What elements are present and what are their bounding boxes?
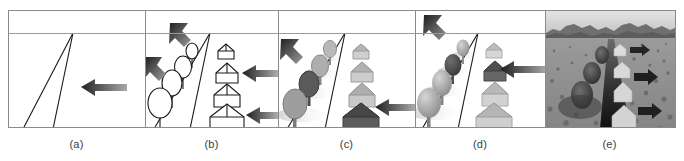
arrow-left-mid-d [500,61,546,78]
panel-a [9,11,146,127]
arrow-diagonal-upper-b [169,23,191,47]
house-smooth-4 [476,103,512,127]
arrow-left-road-a [81,79,127,96]
house-smooth-2-highlighted [484,61,506,81]
figure-panel-series: (a) (b) (c) (d) (e) Progressive scene re… [0,0,684,161]
caption-row: (a) (b) (c) (d) (e) [8,132,676,156]
arrow-left-bottom-b [246,107,279,124]
caption-e: (e) [545,132,674,156]
house-outline-1 [218,44,234,59]
house-smooth-3 [482,82,508,106]
tree-shadow-e [558,95,602,119]
tree-photoreal-1-e [595,46,609,64]
road-right-edge-a [53,33,73,127]
tree-photoreal-2-e [583,62,601,84]
panel-c-canvas [279,11,416,127]
horizon-line-c [279,33,415,34]
house-outline-2 [216,63,238,83]
road-left-edge-a [23,33,73,127]
panel-e [546,11,675,127]
house-smooth-1 [486,43,502,58]
house-shaded-2 [351,62,373,82]
tree-outline-4 [148,88,172,127]
arrow-diagonal-upper-d [423,15,446,40]
panel-row [8,10,676,128]
caption-b: (b) [145,132,278,156]
panel-d [416,11,546,127]
arrow-left-bottom-c [375,99,416,116]
house-shaded-1 [353,44,369,59]
caption-c: (c) [278,132,415,156]
horizon-line-b [146,33,278,34]
panel-b [146,11,279,127]
arrow-diagonal-upper-c [280,39,303,64]
panel-e-canvas [546,11,675,127]
panel-d-canvas [416,11,546,127]
caption-d: (d) [415,132,545,156]
panel-c [279,11,416,127]
horizon-line-a [9,33,145,34]
arrow-left-mid-b [242,65,279,82]
caption-a: (a) [8,132,145,156]
panel-a-canvas [9,11,146,127]
tree-smooth-4 [417,88,441,127]
horizon-line-d [416,33,545,34]
panel-b-canvas [146,11,279,127]
